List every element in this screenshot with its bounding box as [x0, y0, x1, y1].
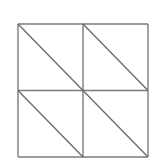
figure-background	[0, 0, 161, 166]
quadrant-diagonal-diagram	[0, 0, 161, 166]
figure-canvas	[0, 0, 161, 166]
